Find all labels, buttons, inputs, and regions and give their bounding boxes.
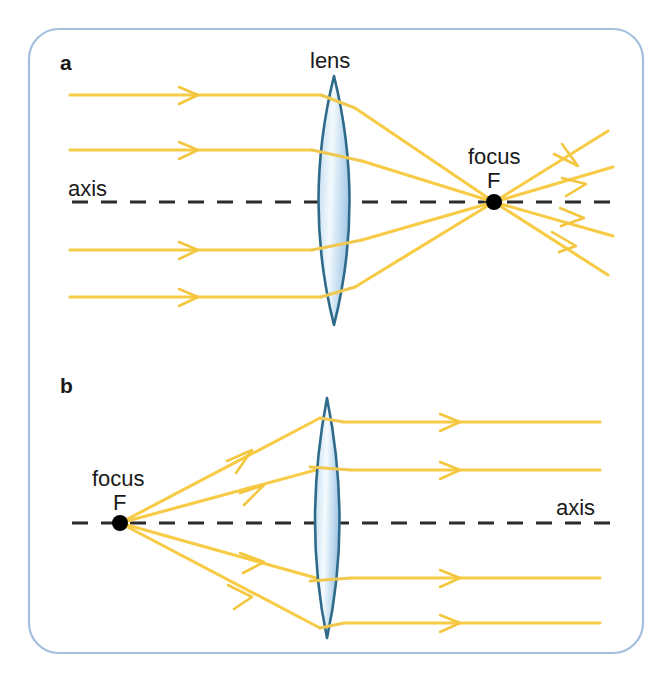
ray-converge-a-4 [355, 202, 494, 287]
incoming-ray-arrows-a [179, 87, 198, 306]
diverging-ray-arrows-a [552, 144, 586, 252]
diverging-ray-arrows-b [227, 450, 264, 609]
ray-diverge-a-2 [494, 167, 613, 202]
incoming-rays-a [70, 95, 321, 297]
panel-a [70, 76, 617, 325]
convex-lens-a [319, 76, 350, 325]
lens-label-a: lens [310, 50, 350, 72]
lens-diagram-canvas [0, 0, 671, 682]
ray-converge-a-3 [362, 202, 494, 240]
lens-diagram-figure: a lens axis focus F b focus F axis [0, 0, 671, 682]
focus-label-b: focus [92, 468, 145, 490]
focus-point-b [112, 515, 128, 531]
ray-from-focus-b-2 [120, 467, 327, 523]
focus-point-label-a: F [487, 170, 500, 192]
convex-lens-b [315, 398, 340, 638]
outgoing-rays-b [344, 422, 600, 623]
ray-from-focus-b-1 [120, 418, 320, 523]
panel-letter-b: b [60, 375, 73, 396]
ray-diverge-a-3 [494, 202, 613, 236]
arrow-from-focus-b-4 [228, 585, 252, 609]
ray-from-focus-b-3 [120, 523, 327, 581]
focus-label-a: focus [468, 146, 521, 168]
focus-point-a [486, 194, 502, 210]
panel-b [72, 398, 617, 638]
ray-from-focus-b-4 [120, 523, 320, 628]
converging-rays-a [355, 108, 494, 287]
axis-label-a: axis [68, 178, 107, 200]
ray-diverge-a-4 [494, 202, 608, 275]
arrow-from-focus-b-3 [240, 553, 264, 573]
axis-label-b: axis [556, 497, 595, 519]
focus-point-label-b: F [113, 492, 126, 514]
panel-letter-a: a [60, 52, 72, 73]
